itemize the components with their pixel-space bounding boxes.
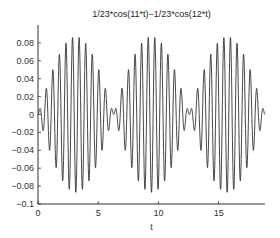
y-tick-label: 0.06 — [16, 56, 34, 66]
x-tick-label: 5 — [96, 208, 101, 218]
y-tick-label: 0.08 — [16, 38, 34, 48]
y-tick-label: 0.02 — [16, 92, 34, 102]
x-axis-label: t — [38, 222, 265, 232]
x-tick-label: 10 — [153, 208, 163, 218]
data-line — [38, 38, 265, 193]
y-tick-label: −0.06 — [11, 163, 34, 173]
y-tick-label: 0.04 — [16, 74, 34, 84]
y-tick-label: −0.04 — [11, 145, 34, 155]
y-tick-label: −0.08 — [11, 181, 34, 191]
y-tick-label: −0.02 — [11, 127, 34, 137]
y-tick-label: 0 — [29, 110, 34, 120]
plot-area: 0.080.060.040.020−0.02−0.04−0.06−0.08−0.… — [0, 0, 280, 238]
y-tick-label: −0.1 — [16, 199, 34, 209]
x-tick-label: 15 — [214, 208, 224, 218]
x-tick-label: 0 — [35, 208, 40, 218]
